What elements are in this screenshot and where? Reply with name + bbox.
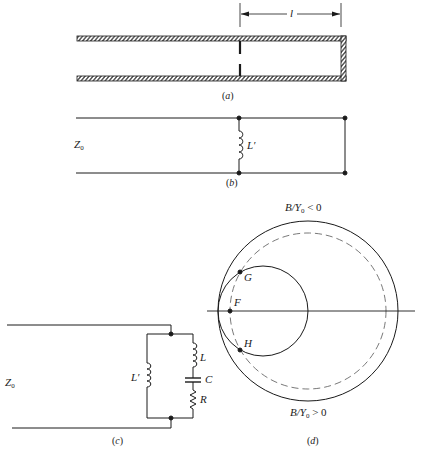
point-F-marker [228, 309, 232, 313]
susceptance-negative-label: B/Y0 < 0 [285, 202, 322, 215]
panel-a-waveguide [77, 3, 346, 81]
caption-c: (c) [112, 436, 123, 446]
susceptance-positive-label: B/Y0 > 0 [290, 407, 327, 420]
resistor-label: R [200, 394, 207, 405]
panel-b-circuit [76, 116, 347, 175]
shunt-inductor-label-b: L′ [247, 140, 256, 151]
series-inductor-label: L [200, 352, 206, 363]
shunt-inductor-label-c: L′ [131, 372, 140, 383]
arrowhead-left-icon [241, 12, 249, 17]
line-impedance-label-c: Z0 [5, 377, 15, 390]
point-G-label: G [244, 272, 252, 283]
panel-c-circuit [7, 325, 201, 428]
point-H-marker [238, 348, 242, 352]
waveguide-short-wall [341, 36, 346, 81]
caption-d: (d) [307, 436, 319, 446]
point-H-label: H [244, 338, 252, 349]
inductor-coil-icon [239, 131, 243, 159]
waveguide-bottom-wall [77, 76, 346, 81]
panel-d-circle-diagram [207, 221, 415, 401]
figure-canvas [0, 0, 425, 456]
caption-a: (a) [222, 91, 234, 101]
shunt-inductor-coil-icon [147, 363, 151, 387]
resistor-zigzag-icon [190, 390, 196, 409]
dimension-label-l: l [290, 8, 293, 19]
arrowhead-right-icon [332, 12, 340, 17]
line-impedance-label-b: Z0 [74, 139, 84, 152]
point-F-label: F [234, 297, 241, 308]
caption-b: (b) [226, 178, 238, 188]
capacitor-label: C [205, 374, 212, 385]
point-G-marker [238, 270, 242, 274]
series-inductor-coil-icon [193, 343, 197, 367]
waveguide-top-wall [77, 36, 346, 41]
